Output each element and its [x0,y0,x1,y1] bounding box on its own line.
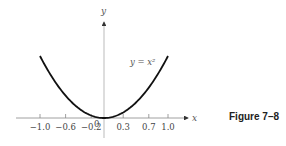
figure-caption: Figure 7–8 [229,111,279,122]
x-tick-label: 1.0 [161,122,175,132]
origin-label: 0 [94,119,99,129]
curve-label: y = x² [129,57,156,67]
parabola-chart: x y −1.0−0.6−0.20.30.71.0 0 y = x² [0,0,286,146]
x-tick-labels: −1.0−0.6−0.20.30.71.0 [30,122,175,132]
x-tick-label: 0.7 [142,122,156,132]
x-tick-label: −1.0 [30,122,51,132]
x-tick-label: 0.3 [116,122,130,132]
y-axis-label: y [100,6,107,16]
x-axis-label: x [192,113,197,123]
x-tick-label: −0.6 [55,122,76,132]
